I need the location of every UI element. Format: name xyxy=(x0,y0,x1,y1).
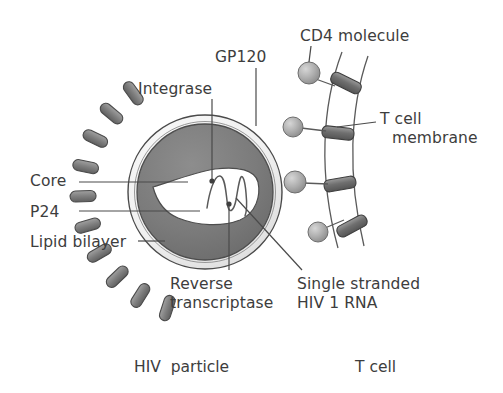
gp120-spike xyxy=(104,264,130,290)
gp120-spike xyxy=(72,159,100,175)
membrane-bar-group xyxy=(321,71,368,239)
hiv-tcell-diagram: CD4 molecule GP120 Integrase T cellmembr… xyxy=(0,0,503,393)
label-cd4-molecule: CD4 molecule xyxy=(300,27,409,46)
integrase-dot xyxy=(209,178,214,183)
label-t-cell-membrane-line1: T cell xyxy=(380,110,422,128)
gp120-spike xyxy=(74,217,102,235)
membrane-bar xyxy=(321,125,354,140)
label-single-stranded-rna-line1: Single stranded xyxy=(297,275,420,293)
label-single-stranded-rna-line2: HIV 1 RNA xyxy=(297,294,420,313)
membrane-bar xyxy=(329,71,363,96)
cd4-sphere xyxy=(308,222,328,242)
membrane-bar xyxy=(323,175,357,192)
membrane-bar xyxy=(335,213,369,239)
label-p24: P24 xyxy=(30,203,59,222)
label-gp120: GP120 xyxy=(215,48,266,67)
cd4-sphere xyxy=(283,117,303,137)
label-reverse-transcriptase-line2: transcriptase xyxy=(170,294,273,313)
caption-t-cell: T cell xyxy=(355,358,396,376)
label-t-cell-membrane-line2: membrane xyxy=(380,129,478,148)
cd4-sphere-bound xyxy=(284,171,306,193)
cd4-molecule-group xyxy=(283,62,344,242)
label-reverse-transcriptase-line1: Reverse xyxy=(170,275,233,293)
gp120-spike xyxy=(70,190,96,202)
label-core: Core xyxy=(30,172,66,191)
leader-t-cell-membrane xyxy=(337,122,376,127)
t-cell xyxy=(283,52,369,248)
label-t-cell-membrane: T cellmembrane xyxy=(380,110,478,148)
caption-hiv-particle: HIV particle xyxy=(134,358,229,376)
gp120-spike xyxy=(98,101,125,126)
cd4-sphere xyxy=(298,62,320,84)
label-single-stranded-rna: Single strandedHIV 1 RNA xyxy=(297,275,420,313)
gp120-spike xyxy=(81,128,109,149)
leader-cd4 xyxy=(309,46,311,62)
label-lipid-bilayer: Lipid bilayer xyxy=(30,233,126,252)
label-integrase: Integrase xyxy=(138,80,212,99)
label-reverse-transcriptase: Reversetranscriptase xyxy=(170,275,273,313)
reverse-transcriptase-dot xyxy=(226,201,231,206)
gp120-spike xyxy=(129,282,152,310)
